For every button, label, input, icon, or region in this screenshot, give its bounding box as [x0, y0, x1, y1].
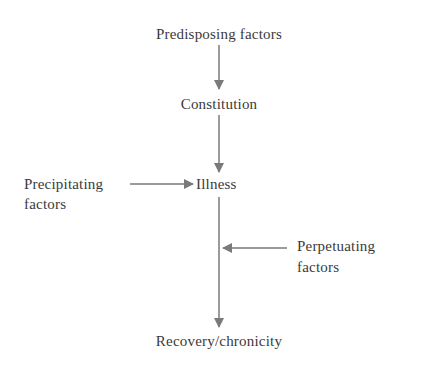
node-predisposing-factors: Predisposing factors: [156, 26, 282, 43]
node-precipitating-line2: factors: [24, 196, 66, 213]
node-perpetuating-line2: factors: [297, 259, 339, 276]
diagram-canvas: Predisposing factors Constitution Illnes…: [0, 0, 421, 380]
node-perpetuating-line1: Perpetuating: [297, 238, 375, 255]
node-precipitating-line1: Precipitating: [24, 176, 103, 193]
node-constitution: Constitution: [181, 96, 258, 113]
node-illness: Illness: [196, 176, 237, 193]
node-recovery-chronicity: Recovery/chronicity: [156, 333, 282, 350]
